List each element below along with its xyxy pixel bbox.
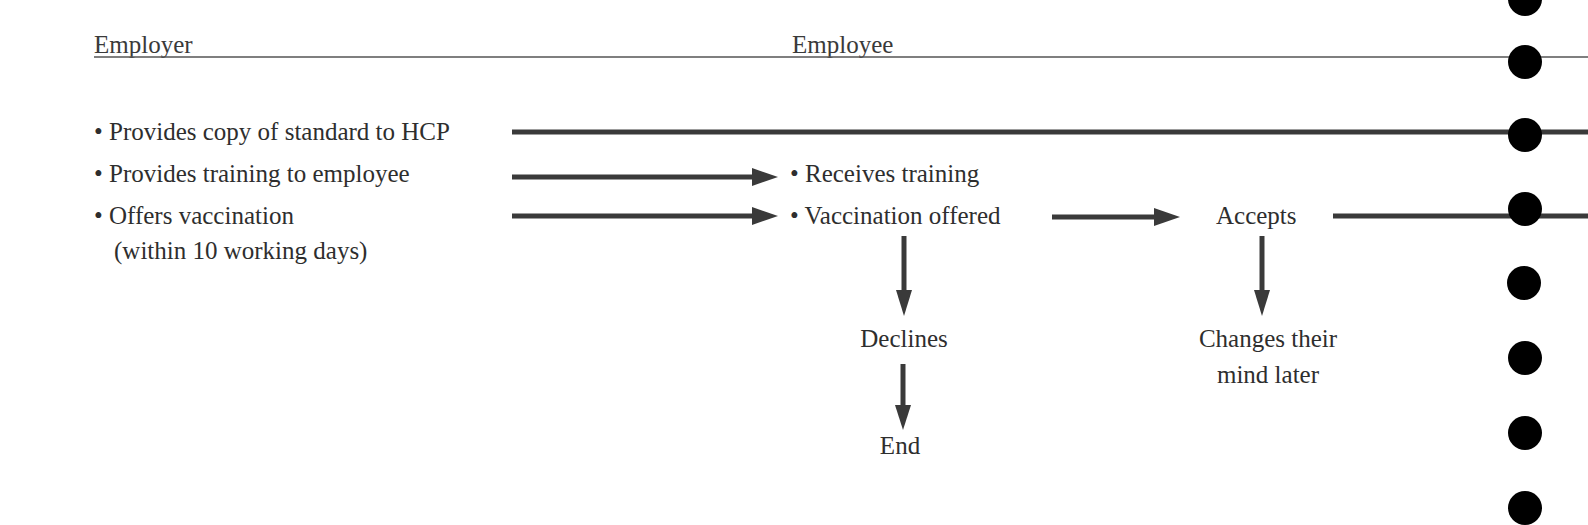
end-arrowhead-icon — [895, 405, 911, 430]
employer-item-standard: • Provides copy of standard to HCP — [94, 117, 450, 147]
punch-hole-dot — [1508, 416, 1542, 450]
outcome-accepts: Accepts — [1216, 201, 1297, 231]
punch-hole-dot — [1508, 45, 1542, 79]
employer-item-vaccination-note: (within 10 working days) — [114, 236, 367, 266]
changes-mind-arrowhead-icon — [1254, 290, 1270, 316]
vaccination-arrowhead-icon — [752, 207, 778, 225]
employee-item-vaccination-offered: • Vaccination offered — [790, 201, 1001, 231]
employer-item-vaccination: • Offers vaccination — [94, 201, 294, 231]
punch-hole-dot — [1508, 118, 1542, 152]
outcome-declines: Declines — [844, 324, 964, 354]
training-arrowhead-icon — [752, 168, 778, 186]
employee-item-receives-training: • Receives training — [790, 159, 979, 189]
outcome-end: End — [850, 431, 950, 461]
accepts-arrowhead-icon — [1154, 208, 1180, 226]
punch-hole-dot — [1508, 491, 1542, 525]
declines-arrowhead-icon — [896, 290, 912, 316]
outcome-changes-mind-line1: Changes their — [1168, 324, 1368, 354]
punch-hole-dot — [1507, 266, 1541, 300]
outcome-changes-mind-line2: mind later — [1168, 360, 1368, 390]
punch-hole-dot — [1508, 341, 1542, 375]
punch-hole-dot — [1508, 192, 1542, 226]
employer-item-training: • Provides training to employee — [94, 159, 410, 189]
